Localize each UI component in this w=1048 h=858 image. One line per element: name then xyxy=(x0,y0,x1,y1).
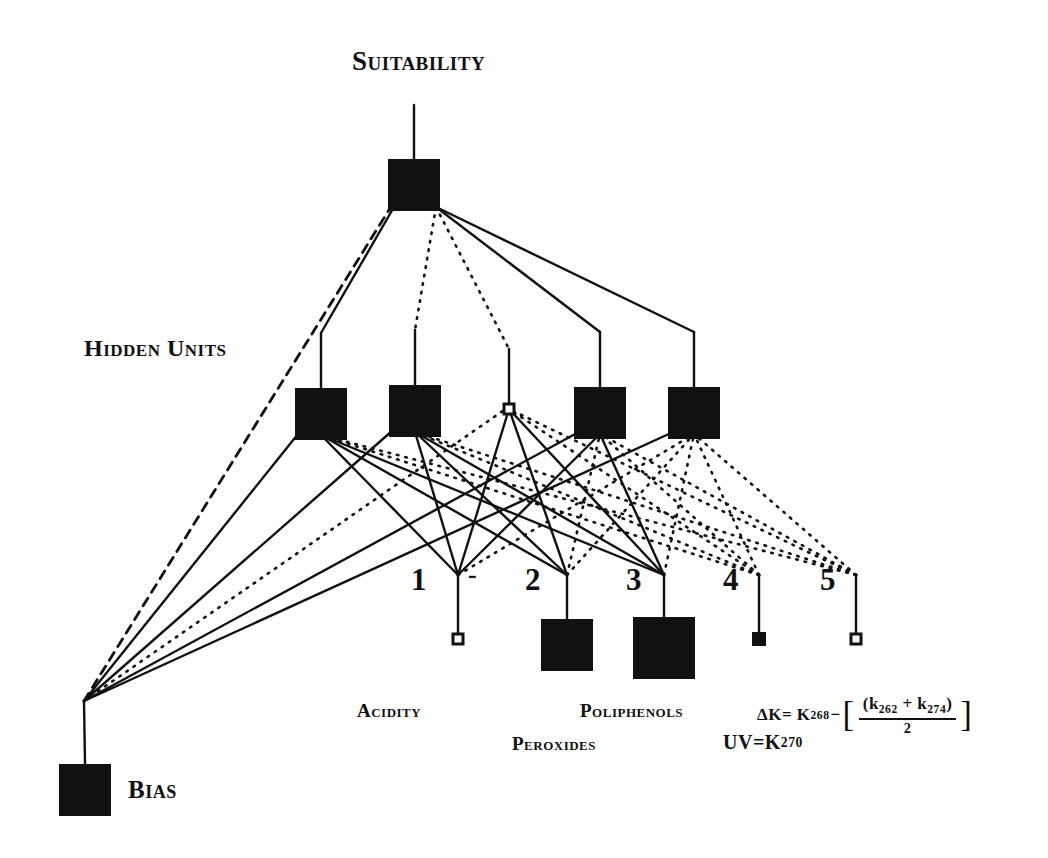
bias-stem xyxy=(84,701,85,764)
edge-i2-h4 xyxy=(567,434,600,575)
input-node-1[interactable] xyxy=(453,634,463,644)
formula-dk-first-k: K xyxy=(797,705,811,725)
edge-output-h2 xyxy=(415,207,436,330)
feature-label-peroxides: Peroxides xyxy=(512,733,596,755)
edge-i5-h4 xyxy=(600,434,856,575)
formula-dk-bracket-open: [ xyxy=(843,705,855,726)
input-number-2: 2 xyxy=(525,562,541,598)
minus-sign-mark: - xyxy=(468,560,477,590)
formula-dk-fraction: (k262 + k274) 2 xyxy=(859,695,957,736)
edge-i4-h3 xyxy=(509,409,759,575)
input-node-2[interactable] xyxy=(541,619,593,671)
edge-layer xyxy=(84,105,856,764)
hidden-units-label: Hidden Units xyxy=(84,335,226,362)
feature-label-acidity: Acidity xyxy=(357,700,421,722)
formula-dk-numerator: (k262 + k274) xyxy=(859,695,957,718)
formula-dk-num-k2: k xyxy=(917,694,927,713)
input-node-5[interactable] xyxy=(851,634,861,644)
edge-output-h3 xyxy=(436,207,509,349)
input-number-3: 3 xyxy=(626,562,642,598)
input-number-5: 5 xyxy=(820,562,836,598)
edge-output-h4 xyxy=(436,207,600,332)
input-number-1: 1 xyxy=(411,562,427,598)
formula-dk-lhs: K= xyxy=(768,705,792,725)
hidden-node-5[interactable] xyxy=(668,387,720,439)
edge-i5-h5 xyxy=(694,434,856,575)
formula-dk-num-k1: k xyxy=(869,694,879,713)
bias-label: Bias xyxy=(128,776,177,804)
edge-i5-h1 xyxy=(321,435,856,575)
edge-i4-h4 xyxy=(600,434,759,575)
formula-dk-denominator: 2 xyxy=(904,720,912,736)
page-title: Suitability xyxy=(352,46,485,77)
feature-label-poliphenols: Poliphenols xyxy=(580,700,683,722)
formula-dk-minus: − xyxy=(830,705,840,725)
formula-dk-bracket-close: ] xyxy=(960,705,972,726)
hidden-node-3[interactable] xyxy=(504,404,514,414)
formula-dk-num-k2-sub: 274 xyxy=(927,703,946,716)
neural-network-diagram: Suitability Hidden Units Bias 1 2 3 4 5 … xyxy=(0,0,1048,858)
bias-node[interactable] xyxy=(59,764,111,816)
hidden-node-1[interactable] xyxy=(295,388,347,440)
edge-i3-h5 xyxy=(664,434,694,575)
edge-bias-h2 xyxy=(84,431,392,701)
formula-dk-num-plus: + xyxy=(902,694,912,713)
edge-bias-h1 xyxy=(84,434,298,701)
formula-dk-num-close: ) xyxy=(946,694,952,713)
formula-dk-first-sub: 268 xyxy=(811,709,830,722)
hidden-node-2[interactable] xyxy=(389,385,441,437)
edge-bias-output xyxy=(84,205,392,701)
node-layer xyxy=(59,159,861,816)
edge-bias-h3 xyxy=(84,408,507,701)
edge-output-h5 xyxy=(436,207,694,332)
edge-output-h1 xyxy=(321,207,394,333)
edge-i3-h1 xyxy=(321,435,664,575)
formula-dk-num-k1-sub: 262 xyxy=(879,703,898,716)
edge-i2-h5 xyxy=(567,434,694,575)
input-number-4: 4 xyxy=(723,562,739,598)
hidden-node-4[interactable] xyxy=(574,387,626,439)
input-node-3[interactable] xyxy=(633,617,695,679)
input-node-4[interactable] xyxy=(752,632,766,646)
formula-delta-k: ΔK= K268−[ (k262 + k274) 2 ] xyxy=(757,695,973,736)
formula-uv-subscript: 270 xyxy=(781,735,803,751)
output-node[interactable] xyxy=(388,159,440,211)
formula-dk-delta: Δ xyxy=(757,705,768,725)
edge-bias-h4 xyxy=(84,433,577,701)
